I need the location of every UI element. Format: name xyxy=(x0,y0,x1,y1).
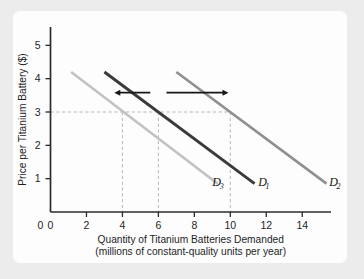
x-tick-label-10: 10 xyxy=(224,219,236,231)
rightward-shift-arrow-head xyxy=(223,90,229,96)
y-tick-label-3: 3 xyxy=(35,106,41,118)
curve-label-D1-subscript: 1 xyxy=(265,182,269,191)
x-tick-label-0: 0 xyxy=(48,219,54,231)
curve-label-D2-subscript: 2 xyxy=(337,182,341,191)
figure-root: 02468101214123450D3D1D2Quantity of Titan… xyxy=(0,0,364,279)
x-axis-title-line1: Quantity of Titanium Batteries Demanded xyxy=(98,234,285,245)
demand-curve-D2 xyxy=(176,72,326,184)
x-tick-label-14: 14 xyxy=(296,219,308,231)
y-axis-title: Price per Titanium Battery ($) xyxy=(17,53,28,185)
x-tick-label-6: 6 xyxy=(155,219,161,231)
y-tick-label-2: 2 xyxy=(35,139,41,151)
x-tick-label-12: 12 xyxy=(260,219,272,231)
x-tick-label-2: 2 xyxy=(84,219,90,231)
origin-label: 0 xyxy=(38,219,44,231)
y-tick-label-5: 5 xyxy=(35,39,41,51)
leftward-shift-arrow-head xyxy=(114,90,120,96)
x-tick-label-8: 8 xyxy=(191,219,197,231)
demand-curve-D1 xyxy=(104,72,254,184)
x-tick-label-4: 4 xyxy=(120,219,126,231)
curve-label-D3-subscript: 3 xyxy=(219,182,224,191)
y-tick-label-4: 4 xyxy=(35,72,41,84)
demand-curve-D3 xyxy=(71,72,218,184)
x-axis-title-line2: (millions of constant-quality units per … xyxy=(95,246,286,257)
y-tick-label-1: 1 xyxy=(35,172,41,184)
demand-curve-chart: 02468101214123450D3D1D2Quantity of Titan… xyxy=(0,0,364,279)
